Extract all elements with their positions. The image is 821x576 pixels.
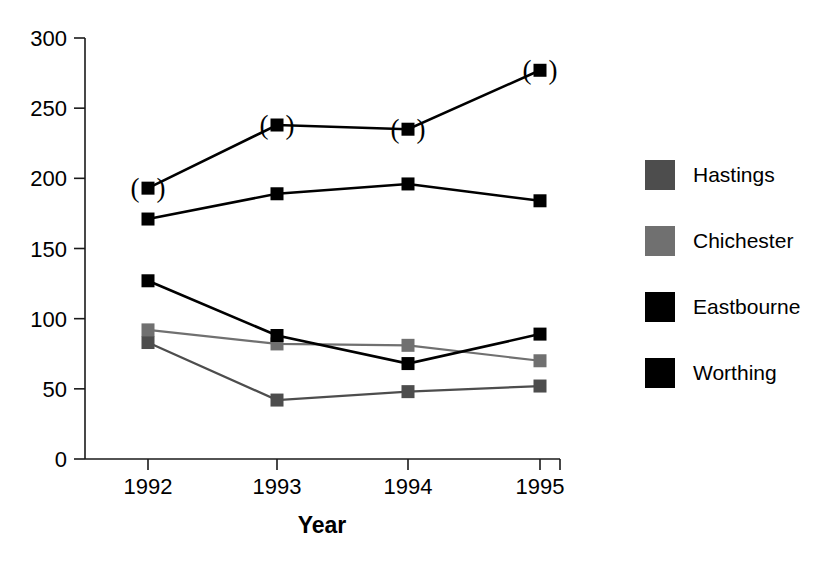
legend-item-hastings[interactable]: Hastings: [645, 160, 775, 190]
data-point-marker-chichester: [402, 339, 415, 352]
x-axis-title: Year: [298, 512, 347, 538]
series-line-worthing: [148, 184, 540, 219]
x-tick-label: 1992: [124, 474, 173, 499]
data-point-marker-hastings: [271, 394, 284, 407]
data-point-marker-worthing: [142, 213, 155, 226]
y-tick-label: 50: [43, 377, 67, 402]
x-tick-label: 1993: [253, 474, 302, 499]
y-tick-label: 200: [30, 166, 67, 191]
data-point-marker-hastings: [534, 380, 547, 393]
legend-item-worthing[interactable]: Worthing: [645, 358, 777, 388]
data-point-marker-hastings: [402, 385, 415, 398]
data-point-marker-worthing-bracketed: [271, 119, 284, 132]
legend-item-label: Chichester: [693, 229, 793, 252]
data-point-marker-worthing-bracketed: [534, 64, 547, 77]
x-axis-ticks: [148, 459, 560, 470]
y-axis-ticks: [74, 38, 85, 459]
y-tick-label: 0: [55, 447, 67, 472]
y-axis-tick-labels: 050100150200250300: [30, 26, 67, 472]
legend: HastingsChichesterEastbourneWorthing: [645, 160, 800, 388]
right-parenthesis-annotation: ): [157, 173, 166, 203]
y-tick-label: 250: [30, 96, 67, 121]
legend-swatch: [645, 160, 675, 190]
right-parenthesis-annotation: ): [417, 114, 426, 144]
annotation-parentheses-layer: ()()()(): [131, 55, 558, 203]
data-point-marker-chichester: [534, 354, 547, 367]
legend-item-chichester[interactable]: Chichester: [645, 226, 793, 256]
y-tick-label: 100: [30, 307, 67, 332]
data-point-marker-worthing-bracketed: [402, 123, 415, 136]
left-parenthesis-annotation: (: [260, 110, 269, 140]
legend-swatch: [645, 292, 675, 322]
legend-swatch: [645, 226, 675, 256]
legend-swatch: [645, 358, 675, 388]
legend-item-label: Eastbourne: [693, 295, 800, 318]
line-chart: 050100150200250300 1992199319941995 ()()…: [0, 0, 821, 576]
data-point-marker-eastbourne: [142, 274, 155, 287]
chart-container: 050100150200250300 1992199319941995 ()()…: [0, 0, 821, 576]
data-point-marker-hastings: [142, 336, 155, 349]
x-axis-tick-labels: 1992199319941995: [124, 474, 565, 499]
left-parenthesis-annotation: (: [391, 114, 400, 144]
left-parenthesis-annotation: (: [131, 173, 140, 203]
legend-item-label: Hastings: [693, 163, 775, 186]
data-point-marker-eastbourne: [402, 357, 415, 370]
x-tick-label: 1995: [516, 474, 565, 499]
data-point-marker-eastbourne: [271, 329, 284, 342]
legend-item-eastbourne[interactable]: Eastbourne: [645, 292, 800, 322]
series-line-worthing-bracketed: [148, 70, 540, 188]
data-point-marker-eastbourne: [534, 328, 547, 341]
y-tick-label: 150: [30, 237, 67, 262]
right-parenthesis-annotation: ): [549, 55, 558, 85]
legend-item-label: Worthing: [693, 361, 777, 384]
y-tick-label: 300: [30, 26, 67, 51]
left-parenthesis-annotation: (: [523, 55, 532, 85]
data-point-marker-worthing: [534, 194, 547, 207]
right-parenthesis-annotation: ): [286, 110, 295, 140]
data-point-marker-chichester: [142, 323, 155, 336]
data-series-layer: [142, 64, 547, 407]
x-tick-label: 1994: [384, 474, 433, 499]
series-line-chichester: [148, 330, 540, 361]
data-point-marker-worthing-bracketed: [142, 182, 155, 195]
series-line-eastbourne: [148, 281, 540, 364]
data-point-marker-worthing: [271, 187, 284, 200]
data-point-marker-worthing: [402, 177, 415, 190]
